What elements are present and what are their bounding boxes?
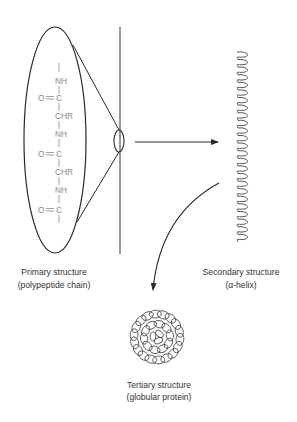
zoom-line-top xyxy=(73,45,119,130)
tertiary-label-line1: Tertiary structure xyxy=(127,380,191,390)
chem-c-2: C xyxy=(56,149,62,159)
chem-nh-2: NH xyxy=(55,129,67,139)
chem-chr-1: CHR xyxy=(55,111,73,121)
secondary-label-line1: Secondary structure xyxy=(203,267,280,277)
tertiary-structure: Tertiary structure (globular protein) xyxy=(127,309,192,402)
protein-structure-diagram: NH O C CHR NH O C CHR NH O C Pri xyxy=(0,0,297,422)
chem-o-2: O xyxy=(38,149,45,159)
primary-structure: NH O C CHR NH O C CHR NH O C Pri xyxy=(18,27,124,290)
secondary-structure: Secondary structure (α-helix) xyxy=(203,52,280,290)
secondary-label-line2: (α-helix) xyxy=(225,280,256,290)
chem-nh-3: NH xyxy=(55,185,67,195)
peptide-chemistry: NH O C CHR NH O C CHR NH O C xyxy=(38,63,73,223)
alpha-helix-icon xyxy=(237,52,248,242)
chem-nh-1: NH xyxy=(55,76,67,86)
chem-chr-2: CHR xyxy=(55,167,73,177)
primary-label-line2: (polypeptide chain) xyxy=(18,280,91,290)
selected-segment-ellipse xyxy=(114,130,124,152)
primary-label-line1: Primary structure xyxy=(21,267,87,277)
chem-c-1: C xyxy=(56,93,62,103)
globular-protein-icon xyxy=(129,309,184,364)
tertiary-label-line2: (globular protein) xyxy=(127,392,192,402)
chem-o-3: O xyxy=(38,205,45,215)
chem-o-1: O xyxy=(38,93,45,103)
magnified-chain-ellipse xyxy=(24,27,86,253)
chem-c-3: C xyxy=(56,205,62,215)
